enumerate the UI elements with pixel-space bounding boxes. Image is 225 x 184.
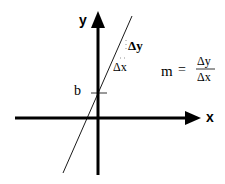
formula-lhs: m bbox=[161, 64, 173, 79]
formula-equals: = bbox=[178, 63, 186, 77]
x-axis-label: x bbox=[206, 110, 214, 124]
x-axis-arrow-icon bbox=[185, 111, 201, 125]
intercept-label: b bbox=[74, 84, 81, 98]
formula-numerator: Δy bbox=[197, 55, 211, 67]
slope-diagram: y x b Δy Δx m = Δy Δx bbox=[0, 0, 225, 184]
delta-y-label: Δy bbox=[128, 39, 143, 52]
formula-denominator: Δx bbox=[197, 71, 211, 83]
diagram-graphics bbox=[0, 0, 225, 184]
y-axis-label: y bbox=[79, 13, 87, 27]
delta-x-label: Δx bbox=[113, 61, 127, 73]
y-axis-arrow-icon bbox=[91, 11, 105, 28]
